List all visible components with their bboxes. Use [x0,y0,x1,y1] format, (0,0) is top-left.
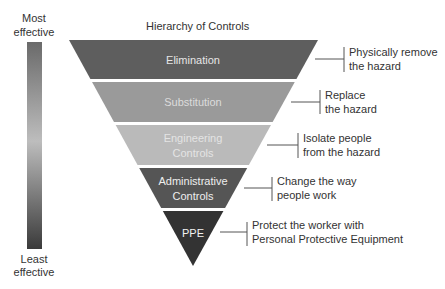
description-ppe: Protect the worker withPersonal Protecti… [220,219,403,246]
description-text: the hazard [325,103,377,115]
band-label: PPE [182,227,204,239]
description-text: Change the way [277,175,357,187]
description-administrative-controls: Change the waypeople work [244,175,357,201]
description-engineering-controls: Isolate peoplefrom the hazard [267,132,380,158]
description-substitution: Replacethe hazard [291,89,377,115]
level-elimination: Elimination [69,40,318,79]
effectiveness-gradient-bar [27,42,42,249]
scale-top-label-line2: effective [14,26,55,38]
effectiveness-scale: Most effective Least effective [14,12,55,278]
band-label: Administrative [158,175,227,187]
description-text: Personal Protective Equipment [252,233,403,245]
description-text: Physically remove [349,46,438,58]
scale-bottom-label-line1: Least [21,253,48,265]
level-ppe: PPE [163,211,224,266]
description-text: Isolate people [303,132,372,144]
band-label: Elimination [166,54,220,66]
description-text: Protect the worker with [252,219,364,231]
band-label: Controls [173,147,214,159]
scale-bottom-label-line2: effective [14,266,55,278]
level-engineering-controls: EngineeringControls [116,125,271,165]
level-administrative-controls: AdministrativeControls [139,168,247,208]
hierarchy-of-controls-diagram: Hierarchy of Controls Most effective Lea… [0,0,445,289]
band-label: Substitution [164,96,221,108]
description-text: Replace [325,89,365,101]
description-elimination: Physically removethe hazard [315,46,438,72]
level-substitution: Substitution [92,82,295,122]
description-text: from the hazard [303,146,380,158]
description-text: people work [277,189,337,201]
scale-top-label-line1: Most [22,12,46,24]
diagram-title: Hierarchy of Controls [146,20,250,32]
band-label: Engineering [164,132,223,144]
description-text: the hazard [349,60,401,72]
band-label: Controls [173,190,214,202]
